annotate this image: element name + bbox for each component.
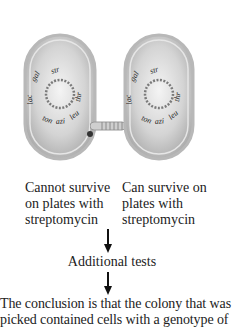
svg-text:azi: azi bbox=[55, 116, 65, 126]
conclusion-line: The conclusion is that the colony that w… bbox=[0, 296, 224, 312]
svg-text:lac: lac bbox=[24, 94, 35, 106]
left-caption: Cannot survive on plates with streptomyc… bbox=[25, 180, 110, 228]
right-bacterium: str gal lac ton azi leu thr bbox=[122, 32, 198, 164]
right-caption-line: plates with bbox=[122, 196, 207, 212]
right-caption: Can survive on plates with streptomycin bbox=[122, 180, 207, 228]
left-caption-line: streptomycin bbox=[25, 212, 110, 228]
conclusion-line: picked contained cells with a genotype o… bbox=[0, 312, 224, 328]
conclusion-text: The conclusion is that the colony that w… bbox=[0, 296, 224, 328]
down-arrow-head-icon bbox=[104, 244, 112, 253]
right-caption-line: streptomycin bbox=[122, 212, 207, 228]
left-caption-line: Cannot survive bbox=[25, 180, 110, 196]
left-bacterium: str gal lac ton azi leu thr bbox=[22, 32, 102, 164]
right-caption-line: Can survive on bbox=[122, 180, 207, 196]
svg-text:lac: lac bbox=[123, 94, 134, 106]
svg-text:azi: azi bbox=[154, 116, 164, 126]
down-arrow-icon bbox=[107, 229, 109, 245]
step-label: Additional tests bbox=[0, 254, 224, 270]
left-caption-line: on plates with bbox=[25, 196, 110, 212]
down-arrow-head-icon bbox=[104, 286, 112, 295]
